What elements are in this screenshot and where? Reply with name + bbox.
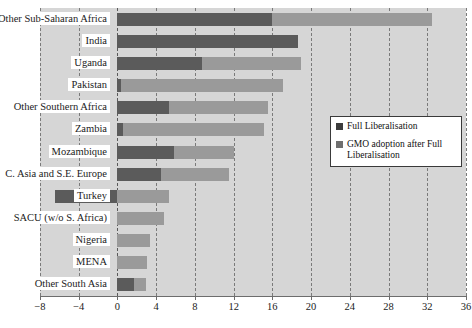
category-label: Uganda bbox=[71, 56, 110, 69]
legend-swatch-icon bbox=[336, 123, 343, 130]
axis-tick-label: −4 bbox=[73, 301, 84, 312]
axis-tick-label: −8 bbox=[34, 301, 45, 312]
axis-tick bbox=[389, 296, 390, 300]
legend-label: GMO adoption after Full Liberalisation bbox=[347, 139, 456, 161]
category-label: MENA bbox=[73, 255, 110, 268]
axis-tick bbox=[427, 296, 428, 300]
axis-tick-label: 12 bbox=[228, 301, 239, 312]
category-label: Other South Asia bbox=[32, 277, 110, 290]
category-label: Pakistan bbox=[68, 78, 110, 91]
axis-tick-label: 20 bbox=[306, 301, 317, 312]
axis-tick bbox=[40, 296, 41, 300]
category-label: Mozambique bbox=[49, 145, 110, 158]
legend-item-full-liberalisation: Full Liberalisation bbox=[336, 121, 456, 132]
axis-tick bbox=[350, 296, 351, 300]
chart-title bbox=[0, 0, 472, 2]
axis-tick bbox=[79, 296, 80, 300]
category-label: C. Asia and S.E. Europe bbox=[2, 167, 110, 180]
axis-tick-label: 24 bbox=[345, 301, 356, 312]
category-label: India bbox=[82, 34, 110, 47]
axis-tick bbox=[234, 296, 235, 300]
bar-chart: Other Sub-Saharan AfricaIndiaUgandaPakis… bbox=[0, 0, 472, 328]
category-label: Other Southern Africa bbox=[11, 100, 110, 113]
axis-tick-label: 28 bbox=[383, 301, 394, 312]
category-label: SACU (w/o S. Africa) bbox=[11, 211, 110, 224]
legend: Full Liberalisation GMO adoption after F… bbox=[330, 116, 462, 167]
axis-tick bbox=[195, 296, 196, 300]
axis-tick-label: 0 bbox=[115, 301, 120, 312]
axis-tick bbox=[272, 296, 273, 300]
axis-tick-label: 4 bbox=[154, 301, 159, 312]
axis-tick bbox=[156, 296, 157, 300]
x-axis-line bbox=[40, 296, 466, 297]
category-label: Turkey bbox=[74, 189, 110, 202]
axis-tick bbox=[466, 296, 467, 300]
legend-swatch-icon bbox=[336, 141, 343, 148]
axis-tick-label: 16 bbox=[267, 301, 278, 312]
axis-tick bbox=[311, 296, 312, 300]
category-label: Nigeria bbox=[73, 233, 111, 246]
legend-label: Full Liberalisation bbox=[347, 121, 456, 132]
legend-item-gmo-adoption: GMO adoption after Full Liberalisation bbox=[336, 139, 456, 161]
category-label: Other Sub-Saharan Africa bbox=[0, 12, 110, 25]
axis-tick-label: 8 bbox=[192, 301, 197, 312]
axis-tick bbox=[117, 296, 118, 300]
axis-tick-label: 32 bbox=[422, 301, 433, 312]
category-label: Zambia bbox=[72, 122, 110, 135]
axis-tick-label: 36 bbox=[461, 301, 472, 312]
